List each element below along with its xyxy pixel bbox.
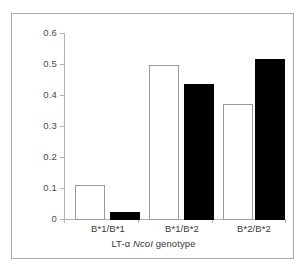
bar-black-B2B2 <box>255 59 285 220</box>
bar-white-B1B2 <box>149 65 179 220</box>
x-axis-title-suffix: genotype <box>153 238 196 249</box>
y-tick-label-0.6: 0.6 <box>17 28 57 38</box>
figure-frame: 0.6 0.5 0.4 0.3 0.2 0.1 0 B*1/B*1 B*1/B*… <box>11 13 294 259</box>
y-tick-mark <box>60 33 65 34</box>
x-category-label-2: B*2/B*2 <box>208 223 300 235</box>
x-axis-title-enzyme: Nco <box>133 238 150 249</box>
y-tick-label-0.1: 0.1 <box>17 183 57 193</box>
bar-white-B1B1 <box>75 185 105 221</box>
y-tick-label-0: 0 <box>17 214 57 224</box>
bar-chart: 0.6 0.5 0.4 0.3 0.2 0.1 0 B*1/B*1 B*1/B*… <box>12 14 295 260</box>
x-axis-title: LT-α NcoI genotype <box>12 238 295 249</box>
y-tick-label-0.5: 0.5 <box>17 59 57 69</box>
y-tick-mark <box>60 64 65 65</box>
bar-black-B1B2 <box>184 84 214 221</box>
y-tick-mark <box>60 126 65 127</box>
y-tick-mark <box>60 188 65 189</box>
x-axis-title-prefix: LT-α <box>111 238 133 249</box>
y-tick-label-0.3: 0.3 <box>17 121 57 131</box>
y-tick-label-0.4: 0.4 <box>17 90 57 100</box>
y-tick-mark <box>60 157 65 158</box>
bar-black-B1B1 <box>110 212 140 221</box>
y-tick-mark <box>60 95 65 96</box>
y-tick-label-0.2: 0.2 <box>17 152 57 162</box>
bar-white-B2B2 <box>223 104 253 220</box>
